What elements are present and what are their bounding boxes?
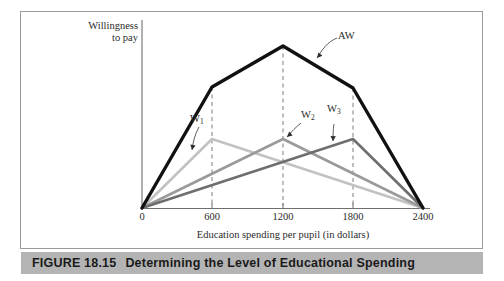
x-tick-label-2400: 2400 [403,211,443,222]
series-label-w1-text: W [190,113,200,124]
y-axis-label-line2: to pay [62,32,138,44]
x-tick-label-1800: 1800 [333,211,373,222]
series-label-w3-text: W [327,103,337,114]
series-label-w3: W3 [327,103,341,114]
x-tick-label-600: 600 [192,211,232,222]
series-label-w1-subscript: 1 [200,117,204,126]
figure-container: Willingness to pay [0,0,504,281]
series-label-w2-subscript: 2 [311,113,315,122]
series-label-aw: AW [338,30,355,41]
figure-caption-number: FIGURE 18.15 [32,256,116,270]
y-axis-label: Willingness to pay [62,20,138,44]
x-tick-label-1200: 1200 [263,211,303,222]
y-axis-label-line1: Willingness [62,20,138,32]
page-edge-bottom [0,274,504,281]
page-edge-left [0,0,20,281]
x-axis-label: Education spending per pupil (in dollars… [142,229,424,240]
series-label-w1: W1 [190,113,204,124]
figure-caption-title: Determining the Level of Educational Spe… [125,256,415,270]
figure-caption-band: FIGURE 18.15 Determining the Level of Ed… [21,252,483,274]
series-label-w2-text: W [301,109,311,120]
series-label-w3-subscript: 3 [337,107,341,116]
x-tick-label-0: 0 [122,211,162,222]
series-label-w2: W2 [301,109,315,120]
